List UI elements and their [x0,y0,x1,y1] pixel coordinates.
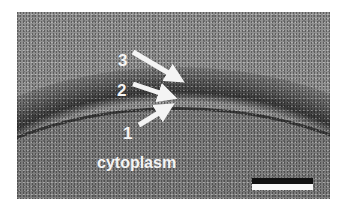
micrograph: 3 2 1 cytoplasm [17,12,330,199]
scale-bar-light [252,184,313,190]
scale-bar [252,178,313,191]
label-cytoplasm: cytoplasm [97,155,176,171]
label-layer-3: 3 [118,52,127,69]
arrow-3-icon [133,52,177,78]
arrow-1-icon [139,108,167,125]
label-layer-2: 2 [117,82,126,99]
arrow-2-icon [133,84,169,96]
label-layer-1: 1 [123,125,132,142]
